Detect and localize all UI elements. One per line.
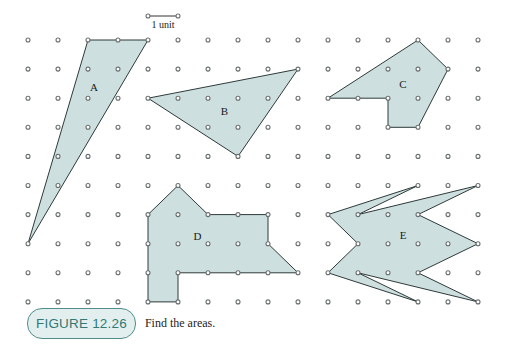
- grid-dot: [86, 184, 90, 188]
- grid-dot: [476, 271, 480, 275]
- grid-dot: [416, 271, 420, 275]
- polygon-e: [328, 186, 478, 302]
- grid-dot: [176, 271, 180, 275]
- grid-dot: [116, 242, 120, 246]
- grid-dot: [296, 184, 300, 188]
- grid-dot: [386, 38, 390, 42]
- grid-dot: [206, 38, 210, 42]
- grid-dot: [86, 67, 90, 71]
- grid-dot: [386, 242, 390, 246]
- grid-dot: [446, 96, 450, 100]
- grid-dot: [86, 242, 90, 246]
- grid-dot: [326, 154, 330, 158]
- grid-dot: [386, 125, 390, 129]
- grid-dot: [416, 67, 420, 71]
- grid-dot: [26, 154, 30, 158]
- grid-dot: [56, 242, 60, 246]
- grid-dot: [176, 213, 180, 217]
- grid-dot: [356, 213, 360, 217]
- grid-dot: [26, 38, 30, 42]
- grid-dot: [236, 213, 240, 217]
- grid-dot: [116, 67, 120, 71]
- grid-dot: [296, 125, 300, 129]
- grid-dot: [386, 271, 390, 275]
- grid-dot: [386, 300, 390, 304]
- grid-dot: [266, 184, 270, 188]
- grid-dot: [26, 184, 30, 188]
- grid-dot: [296, 213, 300, 217]
- shape-label-d: D: [194, 230, 202, 242]
- grid-dot: [236, 154, 240, 158]
- grid-dot: [446, 154, 450, 158]
- grid-dot: [386, 184, 390, 188]
- grid-dot: [296, 300, 300, 304]
- shape-label-c: C: [399, 78, 406, 90]
- figure-number-badge: FIGURE 12.26: [27, 308, 136, 339]
- grid-dot: [56, 184, 60, 188]
- grid-dot: [116, 271, 120, 275]
- grid-dot: [416, 125, 420, 129]
- grid-dot: [26, 300, 30, 304]
- grid-dot: [146, 67, 150, 71]
- grid-dot: [86, 38, 90, 42]
- grid-dot: [326, 300, 330, 304]
- grid-dot: [386, 213, 390, 217]
- grid-dot: [416, 154, 420, 158]
- grid-dot: [416, 300, 420, 304]
- grid-dot: [476, 38, 480, 42]
- grid-dot: [356, 154, 360, 158]
- grid-dot: [146, 213, 150, 217]
- grid-dot: [446, 300, 450, 304]
- grid-dot: [476, 300, 480, 304]
- grid-dot: [386, 67, 390, 71]
- shapes-layer: [28, 40, 478, 302]
- grid-dot: [86, 271, 90, 275]
- figure-caption: FIGURE 12.26 Find the areas.: [27, 308, 215, 339]
- grid-dot: [176, 300, 180, 304]
- grid-dot: [476, 213, 480, 217]
- grid-dot: [296, 154, 300, 158]
- grid-dot: [116, 154, 120, 158]
- grid-dot: [446, 184, 450, 188]
- polygon-c: [328, 40, 448, 127]
- grid-dot: [206, 242, 210, 246]
- grid-dot: [236, 300, 240, 304]
- grid-dot: [56, 271, 60, 275]
- grid-dot: [116, 96, 120, 100]
- grid-dot: [176, 125, 180, 129]
- scale-endpoint-left: [146, 14, 150, 18]
- grid-dot: [116, 213, 120, 217]
- grid-dot: [56, 96, 60, 100]
- grid-dot: [206, 213, 210, 217]
- grid-dot: [176, 154, 180, 158]
- grid-dot: [206, 67, 210, 71]
- grid-dot: [356, 242, 360, 246]
- grid-dot: [56, 67, 60, 71]
- grid-dot: [176, 38, 180, 42]
- grid-dot: [476, 67, 480, 71]
- shape-label-b: B: [221, 105, 228, 117]
- grid-dot: [146, 271, 150, 275]
- grid-dot: [86, 96, 90, 100]
- grid-dot: [116, 300, 120, 304]
- grid-dot: [356, 184, 360, 188]
- grid-dot: [146, 125, 150, 129]
- grid-dot: [356, 96, 360, 100]
- grid-dot: [146, 38, 150, 42]
- grid-dot: [206, 96, 210, 100]
- grid-dot: [296, 38, 300, 42]
- grid-dot: [476, 184, 480, 188]
- shape-label-a: A: [90, 81, 98, 93]
- grid-dot: [326, 38, 330, 42]
- grid-dot: [206, 300, 210, 304]
- scale-endpoint-right: [176, 14, 180, 18]
- grid-dot: [236, 184, 240, 188]
- grid-dot: [236, 38, 240, 42]
- grid-dot: [266, 96, 270, 100]
- grid-dot: [236, 271, 240, 275]
- grid-dot: [266, 213, 270, 217]
- grid-dot: [176, 67, 180, 71]
- grid-dot: [146, 242, 150, 246]
- grid-dot: [26, 96, 30, 100]
- grid-dot: [326, 184, 330, 188]
